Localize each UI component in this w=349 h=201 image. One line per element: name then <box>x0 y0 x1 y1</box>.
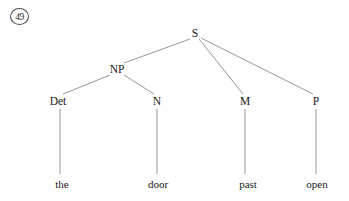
tree-node-s: S <box>192 27 198 39</box>
tree-edge-s-p <box>201 38 313 94</box>
tree-edge-np-det <box>63 75 110 94</box>
tree-edge-s-np <box>124 39 190 63</box>
tree-node-n: N <box>153 95 161 107</box>
tree-edge-s-m <box>199 39 243 94</box>
tree-node-np: NP <box>110 63 125 75</box>
tree-terminal-the: the <box>55 178 68 190</box>
tree-terminal-open: open <box>306 178 327 190</box>
tree-terminal-past: past <box>239 178 257 190</box>
tree-edge-np-n <box>124 75 154 94</box>
tree-node-det: Det <box>50 95 67 107</box>
syntax-tree-figure: 49 SNPDetNMP thedoorpastopen <box>0 0 349 201</box>
tree-terminal-door: door <box>148 178 168 190</box>
edge-group <box>60 38 316 174</box>
tree-node-p: P <box>313 95 319 107</box>
tree-node-m: M <box>240 95 250 107</box>
